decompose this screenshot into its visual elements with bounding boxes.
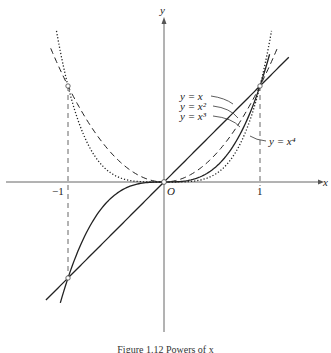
curve-x3: [60, 54, 269, 303]
label-arrow-x3: [213, 116, 240, 127]
y-axis-arrow-icon: [162, 17, 167, 24]
label-arrow-x4: [250, 136, 266, 141]
label-arrow-x1: [211, 96, 233, 104]
point-origin: [162, 180, 167, 185]
plot-area: [0, 0, 331, 353]
curve-label-x3: y = x³: [180, 111, 206, 122]
tick-label-one: 1: [257, 186, 263, 197]
origin-label: O: [167, 186, 175, 197]
point-one-one: [258, 84, 262, 88]
point-neg-one-one: [66, 84, 70, 88]
tick-label-neg-one: −1: [52, 186, 64, 197]
point-neg-one-neg-one: [66, 276, 70, 280]
powers-of-x-figure: y x O −1 1 y = x y = x² y = x³ y = x⁴ Fi…: [0, 0, 331, 353]
y-axis-label: y: [160, 5, 165, 16]
curve-x1: [46, 57, 289, 300]
x-axis-label: x: [323, 177, 328, 188]
figure-caption: Figure 1.12 Powers of x: [0, 344, 331, 353]
curve-label-x4: y = x⁴: [269, 136, 296, 147]
